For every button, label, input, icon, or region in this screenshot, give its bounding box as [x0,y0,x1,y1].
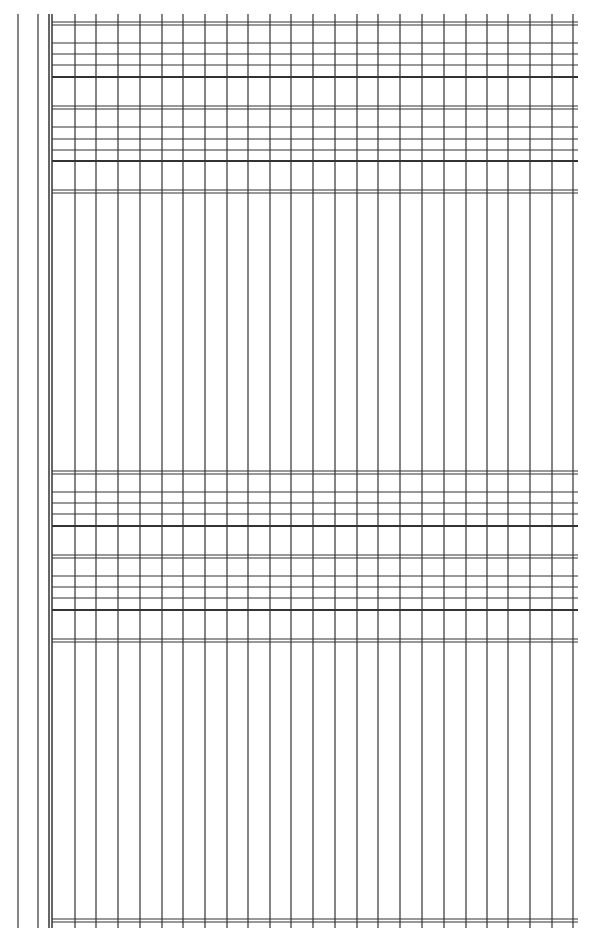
ledger-sheet [0,0,593,936]
ledger-grid [0,0,593,936]
